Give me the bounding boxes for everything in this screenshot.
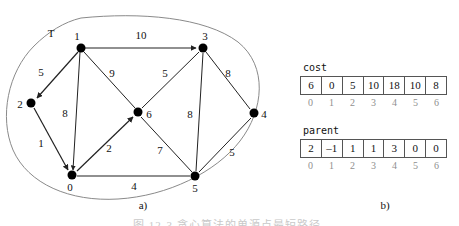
edge-3-5 [196, 53, 203, 171]
parent-array-indices: 0 1 2 3 4 5 6 [300, 159, 447, 172]
edge-weight-3-4: 8 [225, 68, 231, 79]
parent-cell[interactable]: 1 [343, 140, 364, 157]
node-label-1: 1 [74, 31, 80, 42]
edge-3-4 [206, 52, 250, 109]
edge-weight-0-6: 2 [106, 143, 112, 154]
edge-weight-3-6: 5 [162, 68, 168, 79]
parent-index: 0 [300, 159, 321, 172]
node-1 [77, 44, 86, 53]
cost-index: 4 [384, 96, 405, 109]
edge-weight-6-5: 7 [157, 145, 163, 156]
parent-index: 3 [363, 159, 384, 172]
cost-cell[interactable]: 5 [343, 77, 364, 94]
parent-array: parent 2 –1 1 1 3 0 0 0 1 2 3 4 5 6 [300, 125, 447, 172]
node-5 [191, 172, 200, 181]
parent-array-cells: 2 –1 1 1 3 0 0 [300, 139, 447, 158]
cost-array-indices: 0 1 2 3 4 5 6 [300, 96, 447, 109]
edge-0-6 [77, 117, 133, 171]
edge-4-5 [199, 118, 251, 172]
cost-index: 2 [342, 96, 363, 109]
cost-index: 1 [321, 96, 342, 109]
figure-root: T 1 3 2 6 4 0 5 10 5 8 9 1 5 8 8 2 7 4 5… [0, 0, 459, 226]
parent-cell[interactable]: 0 [405, 140, 426, 157]
panel-b-caption: b) [380, 199, 389, 211]
edge-weight-3-5: 8 [187, 109, 193, 120]
cost-index: 3 [363, 96, 384, 109]
cost-index: 5 [405, 96, 426, 109]
tree-set-outline [6, 16, 259, 200]
cost-cell[interactable]: 10 [405, 77, 426, 94]
node-2 [27, 99, 36, 108]
parent-cell[interactable]: 3 [384, 140, 405, 157]
cost-cell[interactable]: 0 [322, 77, 343, 94]
cost-cell[interactable]: 8 [426, 77, 446, 94]
parent-index: 1 [321, 159, 342, 172]
node-label-5: 5 [192, 183, 198, 194]
node-label-2: 2 [17, 99, 23, 110]
edge-weight-0-5: 4 [131, 181, 137, 192]
tree-set-label: T [48, 28, 55, 39]
node-3 [199, 44, 208, 53]
edge-6-5 [141, 117, 192, 172]
node-label-6: 6 [146, 109, 152, 120]
edge-weight-4-5: 5 [229, 147, 235, 158]
arrays-panel: cost 6 0 5 10 18 10 8 0 1 2 3 4 5 6 pa [300, 0, 459, 226]
parent-index: 5 [405, 159, 426, 172]
node-label-4: 4 [261, 109, 267, 120]
parent-cell[interactable]: –1 [322, 140, 343, 157]
cost-array-title: cost [303, 62, 447, 73]
edge-weight-1-0: 8 [62, 108, 68, 119]
edge-1-0 [73, 52, 80, 170]
parent-index: 2 [342, 159, 363, 172]
node-label-3: 3 [202, 31, 208, 42]
node-0 [68, 171, 77, 180]
parent-index: 6 [426, 159, 447, 172]
cost-array: cost 6 0 5 10 18 10 8 0 1 2 3 4 5 6 [300, 62, 447, 109]
parent-index: 4 [384, 159, 405, 172]
parent-cell[interactable]: 1 [364, 140, 385, 157]
cost-cell[interactable]: 10 [364, 77, 385, 94]
cost-cell[interactable]: 6 [301, 77, 322, 94]
node-4 [250, 109, 259, 118]
panel-a-caption: a) [139, 199, 148, 211]
edge-weight-1-3: 10 [136, 30, 147, 41]
cost-index: 0 [300, 96, 321, 109]
graph-panel: T 1 3 2 6 4 0 5 10 5 8 9 1 5 8 8 2 7 4 5… [0, 0, 290, 226]
figure-bottom-caption: 图 12-3 贪心算法的单源点最短路径 [133, 216, 321, 226]
cost-index: 6 [426, 96, 447, 109]
edge-weight-1-2: 5 [38, 67, 44, 78]
node-label-0: 0 [67, 182, 73, 193]
edge-3-6 [142, 52, 199, 108]
parent-array-title: parent [303, 125, 447, 136]
node-6 [134, 108, 143, 117]
edge-1-6 [84, 52, 135, 108]
edge-weight-2-0: 1 [38, 138, 44, 149]
parent-cell[interactable]: 2 [301, 140, 322, 157]
parent-cell[interactable]: 0 [426, 140, 446, 157]
cost-cell[interactable]: 18 [384, 77, 405, 94]
edge-weight-1-6: 9 [109, 68, 115, 79]
cost-array-cells: 6 0 5 10 18 10 8 [300, 76, 447, 95]
